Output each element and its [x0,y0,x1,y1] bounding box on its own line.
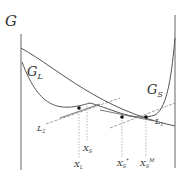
tangent-line-l2-solid [60,104,100,118]
label-xl: XL [73,160,84,170]
label-gs: GS [147,82,163,99]
tangent-point-xl [77,106,81,110]
label-gl: GL [27,64,43,81]
label-xs-m: XSM [139,157,155,169]
tangent-line-l2 [46,98,120,124]
label-l1: L1 [154,117,164,127]
free-energy-diagram: G GL GS L2 L1 XS XL XS* XSM [0,0,185,179]
tangent-line-l1-dashed [110,103,175,128]
tangent-point-xs-star [120,115,124,119]
label-xs-star: XS* [116,157,129,169]
label-xs: XS [82,144,93,154]
tangent-point-xs-m [144,115,148,119]
label-l2: L2 [36,124,46,134]
axis-label-g: G [5,12,17,30]
